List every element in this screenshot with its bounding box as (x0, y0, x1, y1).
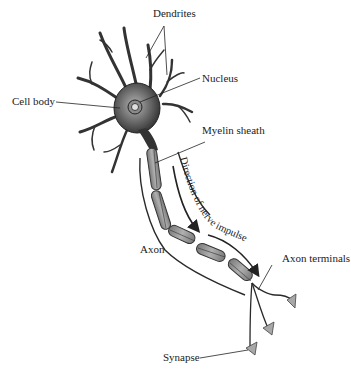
leader-lines (56, 26, 272, 358)
label-axon-terminals: Axon terminals (282, 253, 350, 264)
label-dendrites: Dendrites (153, 8, 196, 19)
label-axon: Axon (140, 244, 164, 255)
nucleus (128, 100, 142, 114)
label-cell-body: Cell body (12, 96, 55, 107)
axon-terminals (250, 283, 292, 348)
label-myelin-sheath: Myelin sheath (202, 125, 265, 136)
myelin-sheath (146, 148, 254, 283)
neuron-diagram: Direction of nerve impulse (0, 0, 351, 379)
direction-label: Direction of nerve impulse (178, 156, 249, 244)
label-synapse: Synapse (163, 352, 200, 363)
synaptic-terminals (246, 294, 296, 355)
label-nucleus: Nucleus (202, 73, 238, 84)
axon-hillock (138, 128, 158, 152)
